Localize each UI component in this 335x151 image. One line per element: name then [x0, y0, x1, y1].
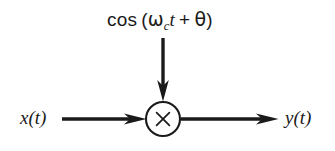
- carrier-plus-operator: +: [179, 9, 190, 30]
- carrier-signal-arrow: [157, 38, 169, 102]
- carrier-time-variable: t: [170, 9, 175, 30]
- output-signal-label: y(t): [285, 108, 311, 127]
- input-close-paren: ): [40, 107, 46, 128]
- carrier-function-name: cos: [107, 9, 137, 30]
- output-close-paren: ): [305, 107, 311, 128]
- carrier-phase-symbol: θ: [194, 8, 206, 30]
- multiplier-node: [146, 102, 180, 136]
- carrier-label: cos(ωct+θ): [107, 10, 213, 33]
- input-signal-label: x(t): [20, 108, 46, 127]
- carrier-omega-symbol: ω: [148, 8, 164, 30]
- carrier-close-paren: ): [206, 9, 213, 30]
- input-signal-arrow: [62, 113, 147, 124]
- output-signal-arrow: [181, 113, 279, 124]
- block-diagram-figure: cos(ωct+θ) x(t) y(t): [0, 0, 335, 151]
